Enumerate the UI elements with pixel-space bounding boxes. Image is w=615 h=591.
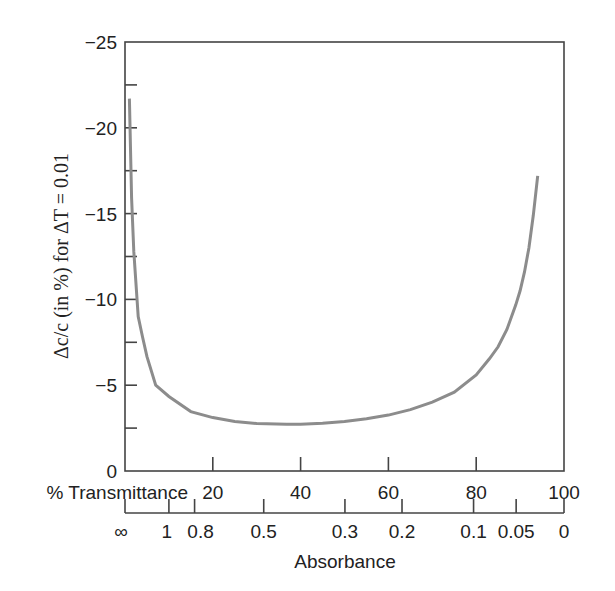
absorbance-tick-label: 1 — [162, 521, 173, 542]
plot-frame — [125, 42, 564, 471]
absorbance-tick-label: 0 — [559, 521, 570, 542]
chart: 0−5−10−15−20−25 20406080100 ∞10.80.50.30… — [0, 0, 615, 591]
absorbance-tick-label: 0.3 — [332, 521, 358, 542]
x-tick-label: 40 — [290, 482, 311, 503]
y-tick-label: −15 — [85, 204, 117, 225]
x-tick-label: 20 — [202, 482, 223, 503]
y-tick-label: −5 — [95, 375, 117, 396]
absorbance-tick-label: 0.8 — [187, 521, 213, 542]
data-curve — [129, 99, 537, 425]
absorbance-tick-label: 0.05 — [498, 521, 535, 542]
y-tick-label: 0 — [106, 461, 117, 482]
plot-border — [125, 42, 564, 471]
y-tick-label: −10 — [85, 289, 117, 310]
y-tick-label: −20 — [85, 118, 117, 139]
y-axis-title: Δc/c (in %) for ΔT = 0.01 — [50, 153, 73, 359]
absorbance-tick-label: ∞ — [114, 521, 128, 542]
x-axis-absorbance: ∞10.80.50.30.20.10.050 — [114, 499, 569, 542]
absorbance-tick-label: 0.5 — [251, 521, 277, 542]
x-axis-transmittance: 20406080100 — [202, 457, 580, 503]
absorbance-tick-label: 0.2 — [389, 521, 415, 542]
x-tick-label: 80 — [466, 482, 487, 503]
x-axis-title-transmittance: % Transmittance — [47, 482, 189, 503]
y-tick-label: −25 — [85, 32, 117, 53]
x-axis-title-absorbance: Absorbance — [294, 551, 395, 572]
absorbance-tick-label: 0.1 — [460, 521, 486, 542]
x-tick-label: 60 — [378, 482, 399, 503]
